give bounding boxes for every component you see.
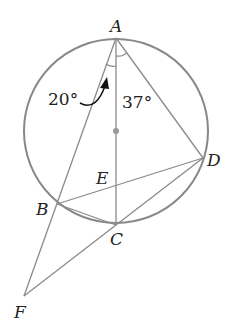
point-label-C: C: [110, 229, 123, 249]
geometry-diagram: 20° 37° A B C D E F: [0, 0, 244, 333]
center-dot: [113, 128, 119, 134]
point-label-E: E: [95, 168, 109, 188]
angle-label-37: 37°: [122, 92, 152, 112]
segment-BC: [57, 204, 116, 225]
angle-arc-FAC: [107, 64, 116, 66]
angle-label-20: 20°: [48, 89, 78, 109]
point-label-F: F: [13, 302, 27, 322]
point-label-A: A: [108, 16, 122, 36]
angle-arc-CAD: [116, 53, 127, 57]
point-label-D: D: [206, 150, 221, 170]
segment-CD: [116, 158, 203, 225]
segment-FC: [24, 225, 116, 296]
point-label-B: B: [35, 199, 49, 219]
segment-AF: [24, 38, 116, 296]
